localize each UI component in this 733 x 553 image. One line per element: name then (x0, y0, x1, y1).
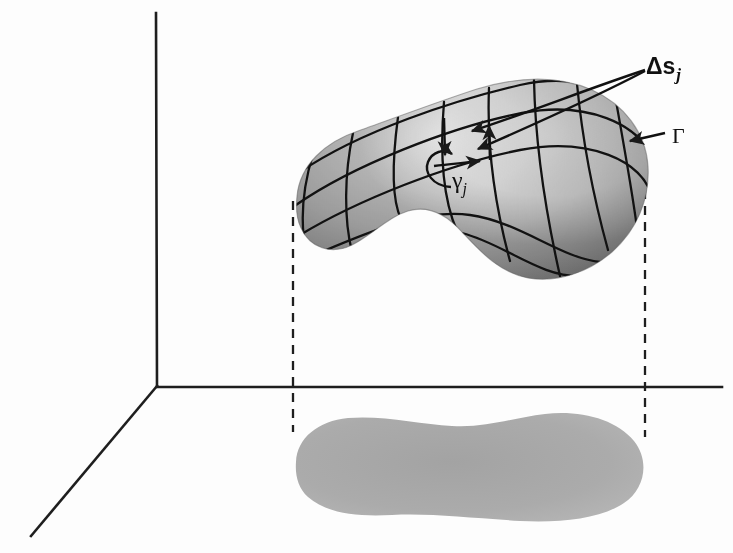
label-gamma-boundary: Γ (672, 125, 685, 147)
label-gamma-j-subscript: j (463, 180, 467, 197)
label-delta-s-subscript: j (676, 65, 681, 84)
axis-vertical (156, 13, 157, 386)
label-gamma-j: γj (452, 168, 467, 197)
shadow-blob (296, 413, 644, 521)
figure-canvas: Δsj γj Γ (0, 0, 733, 553)
surface-blob-group (296, 79, 655, 279)
cell-down-arrow (444, 118, 445, 155)
label-delta-s-text: Δs (646, 53, 675, 79)
label-gamma-j-text: γ (452, 167, 463, 193)
surface-blob-shade-right (296, 79, 648, 279)
label-delta-s: Δsj (646, 55, 681, 83)
figure-svg (0, 0, 733, 553)
axis-diagonal (31, 386, 157, 536)
